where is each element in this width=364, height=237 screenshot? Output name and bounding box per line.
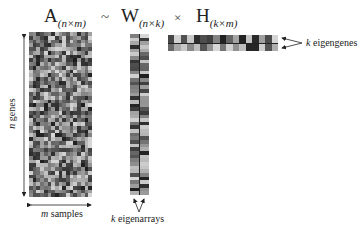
- annotation-arrows: [0, 0, 364, 237]
- samples-text: samples: [48, 208, 83, 219]
- eigenarrays-text: eigenarrays: [115, 213, 164, 224]
- eigengene-arrow-bottom: [282, 43, 302, 48]
- eigengenes-label: k eigengenes: [306, 37, 357, 48]
- eigengene-arrow-top: [282, 38, 302, 43]
- eigenarray-arrow-left: [134, 199, 139, 212]
- samples-label: m samples: [41, 208, 83, 219]
- eigenarrays-label: k eigenarrays: [111, 213, 164, 224]
- genes-variable: n: [6, 124, 17, 129]
- eigenarray-arrow-right: [139, 199, 144, 212]
- genes-label: n genes: [6, 98, 17, 128]
- genes-text: genes: [6, 98, 17, 123]
- eigengenes-text: eigengenes: [310, 37, 357, 48]
